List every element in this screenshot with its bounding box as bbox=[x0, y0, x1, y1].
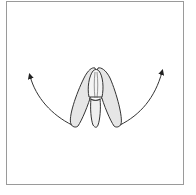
left-arrow-icon bbox=[30, 76, 72, 125]
diagram-canvas bbox=[0, 0, 196, 195]
center-petal-bottom-icon bbox=[91, 99, 101, 127]
right-arrow-icon bbox=[120, 72, 162, 125]
flower-diagram bbox=[0, 0, 196, 195]
